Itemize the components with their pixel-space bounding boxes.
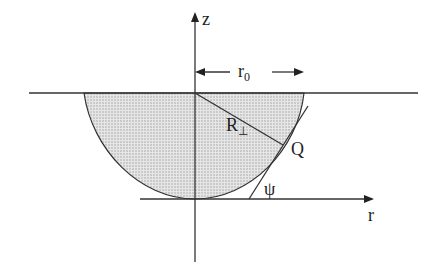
- z-axis-label: z: [202, 10, 210, 28]
- meniscus-diagram: [0, 0, 438, 274]
- r-perp-main: R: [226, 115, 238, 135]
- r-axis-label: r: [368, 206, 374, 224]
- r-perp-sub: ⊥: [238, 124, 248, 138]
- psi-angle-label: ψ: [264, 180, 275, 198]
- r0-label: r0: [238, 62, 250, 80]
- r-perp-label: R⊥: [226, 116, 248, 134]
- point-q-label: Q: [291, 140, 304, 158]
- r0-sub: 0: [244, 70, 250, 84]
